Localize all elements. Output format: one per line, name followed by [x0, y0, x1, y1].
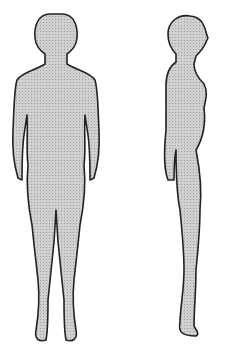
side-view-figure	[165, 16, 208, 336]
front-view-figure	[13, 14, 100, 341]
anatomical-illustration	[0, 0, 226, 350]
